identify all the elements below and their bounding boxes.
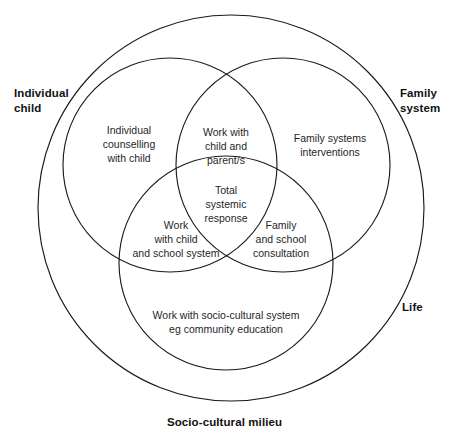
region-individual-counselling-with-child: Individual counselling with child [103,124,156,166]
region-family-systems-interventions: Family systems interventions [294,132,366,160]
region-work-with-child-and-parents: Work with child and parent/s [203,126,249,168]
region-work-with-socio-cultural-system: Work with socio-cultural system eg commu… [153,309,300,337]
region-work-with-child-and-school-system: Work with child and school system [133,219,220,261]
label-individual-child: Individual child [14,86,69,115]
label-life: Life [402,300,423,315]
region-family-and-school-consultation: Family and school consultation [253,219,309,261]
label-family-system: Family system [400,86,440,115]
label-socio-cultural-milieu: Socio-cultural milieu [167,415,282,430]
venn-diagram-figure: Individual child Family system Life Soci… [0,0,449,442]
